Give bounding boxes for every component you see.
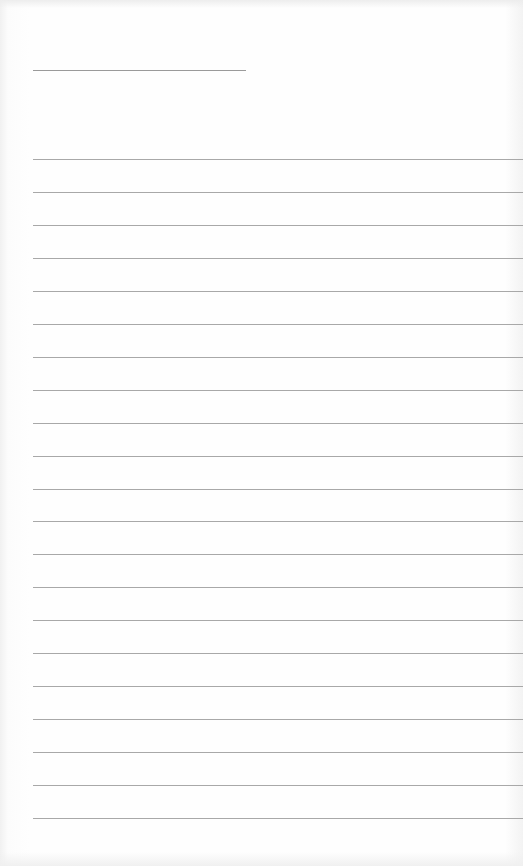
ruled-line bbox=[33, 291, 523, 292]
lined-paper-page bbox=[0, 0, 523, 866]
ruled-line bbox=[33, 324, 523, 325]
ruled-line bbox=[33, 686, 523, 687]
bottom-edge-shadow bbox=[0, 852, 523, 866]
ruled-line bbox=[33, 752, 523, 753]
ruled-line bbox=[33, 159, 523, 160]
ruled-line bbox=[33, 258, 523, 259]
ruled-line bbox=[33, 521, 523, 522]
ruled-line bbox=[33, 489, 523, 490]
ruled-line bbox=[33, 818, 523, 819]
ruled-line bbox=[33, 456, 523, 457]
ruled-line bbox=[33, 554, 523, 555]
top-edge-shadow bbox=[0, 0, 523, 8]
ruled-line bbox=[33, 357, 523, 358]
ruled-line bbox=[33, 390, 523, 391]
ruled-line bbox=[33, 785, 523, 786]
ruled-line bbox=[33, 620, 523, 621]
ruled-line bbox=[33, 587, 523, 588]
ruled-line bbox=[33, 225, 523, 226]
title-write-line bbox=[33, 70, 246, 71]
ruled-line bbox=[33, 192, 523, 193]
ruled-line bbox=[33, 423, 523, 424]
ruled-line bbox=[33, 653, 523, 654]
ruled-line bbox=[33, 719, 523, 720]
